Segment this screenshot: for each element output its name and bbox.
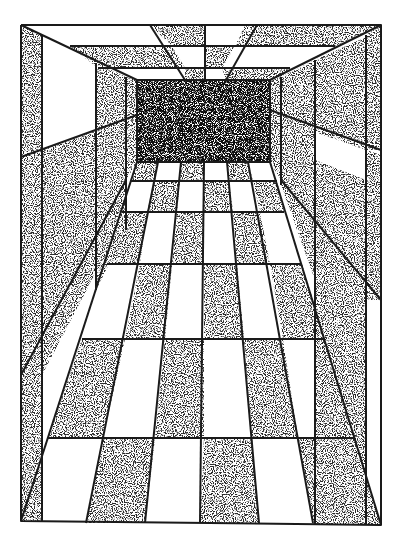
- right-wall-right-strip: [366, 150, 381, 300]
- floor-tile: [180, 162, 204, 181]
- left-wall-panel-top-outer: [21, 25, 42, 157]
- left-wall-base: [21, 375, 42, 521]
- ceiling-tile-5: [185, 68, 205, 80]
- back-wall: [137, 80, 270, 162]
- floor-tile: [200, 438, 259, 523]
- floor-tile: [172, 212, 204, 264]
- perspective-drawing: [0, 0, 404, 544]
- right-wall-top-outer-strip: [366, 25, 381, 150]
